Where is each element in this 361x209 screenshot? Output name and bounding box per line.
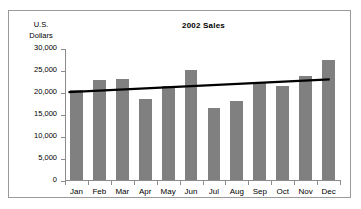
- x-axis-tick: [340, 180, 341, 185]
- x-axis-tick-label: May: [157, 187, 180, 196]
- y-axis-title-line-2: Dollars: [15, 30, 67, 41]
- x-axis-tick-label: Aug: [225, 187, 248, 196]
- y-axis-tick-label: 5,000: [17, 153, 57, 162]
- x-axis-tick-label: Jul: [203, 187, 226, 196]
- plot-area: 05,00010,00015,00020,00025,00030,000: [65, 49, 340, 181]
- chart-title: 2002 Sales: [9, 21, 350, 30]
- x-axis-tick-label: Apr: [134, 187, 157, 196]
- x-axis-tick-label: Jan: [65, 187, 88, 196]
- y-axis-tick-label: 15,000: [17, 109, 57, 118]
- y-axis-tick-label: 20,000: [17, 87, 57, 96]
- y-axis-tick-label: 30,000: [17, 43, 57, 52]
- chart-frame: U.S. Dollars 2002 Sales 05,00010,00015,0…: [8, 10, 351, 198]
- x-axis-tick-label: Mar: [111, 187, 134, 196]
- x-axis-tick-label: Jun: [180, 187, 203, 196]
- x-axis-tick-label: Nov: [294, 187, 317, 196]
- y-axis-tick-label: 25,000: [17, 65, 57, 74]
- x-axis-labels: JanFebMarAprMayJunJulAugSepOctNovDec: [65, 187, 340, 201]
- x-axis-tick-label: Oct: [271, 187, 294, 196]
- y-axis-tick-label: 0: [17, 175, 57, 184]
- x-axis-tick-label: Dec: [317, 187, 340, 196]
- linear-trendline: [65, 49, 340, 181]
- chart-title-text: 2002 Sales: [182, 21, 225, 30]
- y-axis-tick-label: 10,000: [17, 131, 57, 140]
- x-axis-tick-label: Feb: [88, 187, 111, 196]
- x-axis-tick-label: Sep: [248, 187, 271, 196]
